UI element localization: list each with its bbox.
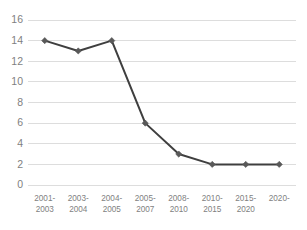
- y-axis-tick-label: 0: [17, 178, 23, 190]
- chart-canvas: 0246810121416 2001-20032003-20042004-200…: [0, 0, 307, 230]
- y-axis-tick-label: 6: [17, 116, 23, 128]
- y-axis-tick-label: 4: [17, 137, 23, 149]
- x-axis-tick-label-line: 2004-: [101, 194, 122, 203]
- x-axis-tick-label-line: 2008-: [168, 194, 189, 203]
- x-axis-tick-label-line: 2007: [136, 205, 155, 214]
- x-axis-tick-label-line: 2015-: [235, 194, 256, 203]
- y-axis-tick-label: 10: [11, 75, 23, 87]
- x-axis-tick-label-line: 2003: [36, 205, 55, 214]
- x-axis-tick-label-line: 2005: [103, 205, 122, 214]
- x-axis-tick-label-line: 2010: [170, 205, 189, 214]
- y-axis-tick-label: 14: [11, 34, 23, 46]
- line-chart: 0246810121416 2001-20032003-20042004-200…: [0, 0, 307, 230]
- x-axis-tick-label-line: 2020-: [269, 194, 290, 203]
- y-axis-tick-label: 2: [17, 158, 23, 170]
- x-axis-tick-label-line: 2003-: [68, 194, 89, 203]
- x-axis-tick-label-line: 2015: [203, 205, 222, 214]
- y-axis-tick-label: 8: [17, 96, 23, 108]
- x-axis-tick-label: 2020-: [269, 194, 290, 203]
- x-axis-tick-label-line: 2004: [69, 205, 88, 214]
- y-axis-tick-label: 12: [11, 55, 23, 67]
- x-axis-tick-label-line: 2010-: [202, 194, 223, 203]
- x-axis-tick-label-line: 2001-: [34, 194, 55, 203]
- x-axis-tick-label-line: 2005-: [135, 194, 156, 203]
- y-axis-tick-label: 16: [11, 13, 23, 25]
- x-axis-tick-label-line: 2020: [237, 205, 256, 214]
